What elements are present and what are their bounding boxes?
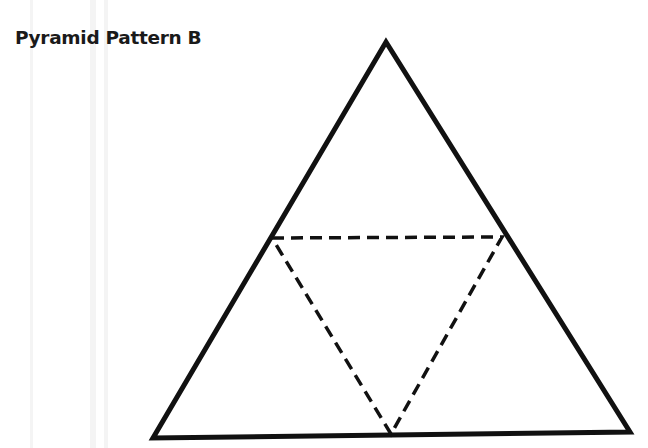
inner-dashed-triangle (272, 237, 502, 434)
outer-triangle (153, 42, 630, 438)
pyramid-net-diagram (0, 0, 648, 448)
